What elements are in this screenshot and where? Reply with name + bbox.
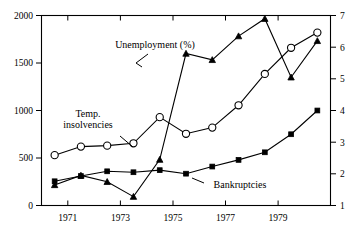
data-point bbox=[156, 114, 163, 121]
data-point bbox=[51, 152, 58, 159]
data-point bbox=[157, 156, 163, 162]
left-tick-label-2000: 2000 bbox=[14, 11, 33, 21]
data-point bbox=[209, 124, 216, 131]
unemployment-leader bbox=[136, 54, 148, 67]
annotation-temp: Temp. bbox=[75, 108, 100, 119]
right-tick-label-1: 1 bbox=[340, 201, 345, 211]
data-point bbox=[184, 171, 189, 176]
x-tick-label-1977: 1977 bbox=[216, 213, 235, 223]
right-tick-label-3: 3 bbox=[340, 138, 345, 148]
x-axis-tick-labels: 1971 1973 1975 1977 1979 bbox=[58, 213, 288, 223]
data-point bbox=[105, 169, 110, 174]
right-tick-label-7: 7 bbox=[340, 11, 345, 21]
chart-container: 2000 1500 1000 500 0 7 6 5 4 3 2 1 bbox=[0, 0, 358, 237]
data-point bbox=[262, 15, 268, 21]
annotation-unemployment: Unemployment (%) bbox=[115, 39, 195, 51]
data-point bbox=[235, 102, 242, 109]
data-point bbox=[261, 70, 268, 77]
right-tick-label-6: 6 bbox=[340, 43, 345, 53]
data-point bbox=[315, 108, 320, 113]
data-point bbox=[235, 33, 241, 39]
left-axis-tick-labels: 2000 1500 1000 500 0 bbox=[14, 11, 33, 211]
data-point bbox=[104, 142, 111, 149]
left-tick-label-500: 500 bbox=[19, 153, 34, 163]
x-tick-label-1979: 1979 bbox=[269, 213, 288, 223]
left-tick-label-1000: 1000 bbox=[14, 106, 33, 116]
data-point bbox=[183, 50, 189, 56]
data-point bbox=[182, 130, 189, 137]
right-axis-tick-labels: 7 6 5 4 3 2 1 bbox=[340, 11, 345, 211]
x-tick-label-1973: 1973 bbox=[111, 213, 130, 223]
right-tick-label-5: 5 bbox=[340, 74, 345, 84]
data-point bbox=[262, 150, 267, 155]
right-tick-label-4: 4 bbox=[340, 106, 345, 116]
data-point bbox=[77, 143, 84, 150]
data-point bbox=[157, 168, 162, 173]
data-point bbox=[289, 132, 294, 137]
data-point bbox=[210, 164, 215, 169]
x-tick-label-1971: 1971 bbox=[58, 213, 77, 223]
data-point bbox=[314, 29, 321, 36]
data-point bbox=[287, 44, 294, 51]
left-axis-ticks bbox=[36, 16, 42, 206]
right-axis-ticks bbox=[331, 16, 337, 206]
left-tick-label-1500: 1500 bbox=[14, 58, 33, 68]
data-point bbox=[131, 170, 136, 175]
right-tick-label-2: 2 bbox=[340, 169, 345, 179]
economic-indicators-line-chart: 2000 1500 1000 500 0 7 6 5 4 3 2 1 bbox=[0, 0, 358, 237]
annotation-bankruptcies: Bankruptcies bbox=[214, 179, 267, 190]
left-tick-label-0: 0 bbox=[28, 201, 33, 211]
bankruptcies-leader bbox=[192, 178, 204, 183]
data-point bbox=[236, 158, 241, 163]
x-tick-label-1975: 1975 bbox=[164, 213, 183, 223]
data-point bbox=[314, 38, 320, 44]
annotation-insolvencies: insolvencies bbox=[63, 119, 113, 130]
series-annotations: Unemployment (%) Temp. insolvencies Bank… bbox=[63, 39, 266, 190]
